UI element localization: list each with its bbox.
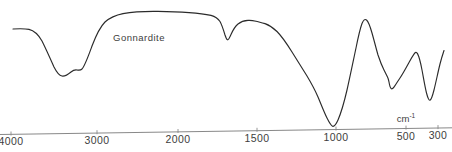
x-axis-label-1000: 1000 (324, 131, 349, 143)
unit-base: cm (397, 113, 410, 124)
x-axis-label-2000: 2000 (166, 133, 191, 145)
spectrum-plot: 4000 3000 2000 1500 1000 500 300 cm-1 Go… (0, 0, 452, 152)
spectrum-figure: 4000 3000 2000 1500 1000 500 300 cm-1 Go… (0, 0, 452, 152)
x-axis-unit-label: cm-1 (397, 112, 416, 124)
x-axis-label-3000: 3000 (85, 134, 110, 146)
x-axis-line (0, 128, 452, 135)
sample-name-label: Gonnardite (113, 32, 165, 43)
x-axis-label-4000: 4000 (0, 135, 23, 147)
unit-exponent: -1 (409, 112, 415, 119)
x-axis-label-500: 500 (397, 130, 416, 142)
x-axis-label-1500: 1500 (245, 132, 270, 144)
x-axis-label-300: 300 (429, 129, 448, 141)
spectrum-curve (13, 11, 444, 126)
